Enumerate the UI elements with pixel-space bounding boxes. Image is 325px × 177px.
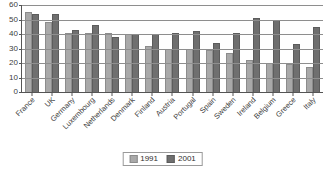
y-tick-label: 0	[14, 88, 18, 96]
legend-item[interactable]: 1991	[129, 155, 158, 163]
y-tick-label: 20	[9, 59, 18, 67]
y-tick-label: 40	[9, 30, 18, 38]
bar-1991	[186, 49, 193, 93]
bar-2001	[52, 14, 59, 92]
gridline	[22, 20, 323, 21]
gridline	[22, 78, 323, 79]
x-label-cell: Denmark	[121, 94, 141, 146]
bar-1991	[206, 50, 213, 92]
bar-1991	[25, 12, 32, 92]
x-label-cell: Greece	[282, 94, 302, 146]
legend-label: 2001	[178, 155, 196, 163]
x-label-cell: Belgium	[262, 94, 282, 146]
y-tick-label: 50	[9, 16, 18, 24]
y-axis: 0102030405060	[0, 0, 20, 95]
bar-2001	[293, 44, 300, 92]
legend-swatch-icon	[167, 155, 175, 163]
y-tick-label: 30	[9, 45, 18, 53]
chart-plot-wrapper: 0102030405060	[0, 0, 325, 103]
x-label-cell: France	[21, 94, 41, 146]
bar-2001	[32, 14, 39, 92]
x-label-cell: Portugal	[182, 94, 202, 146]
bar-1991	[145, 46, 152, 92]
y-tick-mark	[19, 20, 22, 21]
bar-1991	[246, 60, 253, 92]
x-label-cell: Finland	[141, 94, 161, 146]
legend-item[interactable]: 2001	[167, 155, 196, 163]
gridline	[22, 34, 323, 35]
y-tick-label: 60	[9, 1, 18, 9]
bar-1991	[306, 67, 313, 92]
y-tick-mark	[19, 34, 22, 35]
gridline	[22, 5, 323, 6]
bar-1991	[45, 22, 52, 92]
bar-2001	[92, 25, 99, 92]
y-tick-mark	[19, 63, 22, 64]
gridline	[22, 92, 323, 93]
x-axis-labels: FranceUKGermanyLuxembourgNetherlandsDenm…	[21, 94, 322, 146]
bar-2001	[193, 31, 200, 92]
x-axis-tick-label: Italy	[302, 96, 317, 111]
bar-2001	[72, 30, 79, 92]
bar-2001	[313, 27, 320, 92]
y-tick-mark	[19, 49, 22, 50]
bar-2001	[112, 37, 119, 92]
bar-1991	[165, 49, 172, 93]
gridline	[22, 49, 323, 50]
plot-area	[21, 5, 323, 93]
bar-2001	[273, 20, 280, 93]
y-tick-mark	[19, 92, 22, 93]
legend-label: 1991	[140, 155, 158, 163]
y-tick-mark	[19, 5, 22, 6]
gridline	[22, 63, 323, 64]
y-tick-label: 10	[9, 74, 18, 82]
x-axis-tick-label: UK	[44, 96, 57, 109]
x-label-cell: Italy	[302, 94, 322, 146]
legend-swatch-icon	[129, 155, 137, 163]
bar-2001	[253, 18, 260, 92]
x-label-cell: Sweden	[222, 94, 242, 146]
bar-1991	[226, 53, 233, 92]
bar-chart: 0102030405060 FranceUKGermanyLuxembourgN…	[0, 0, 325, 177]
y-tick-mark	[19, 78, 22, 79]
chart-legend: 19912001	[122, 152, 203, 166]
bar-2001	[213, 43, 220, 92]
